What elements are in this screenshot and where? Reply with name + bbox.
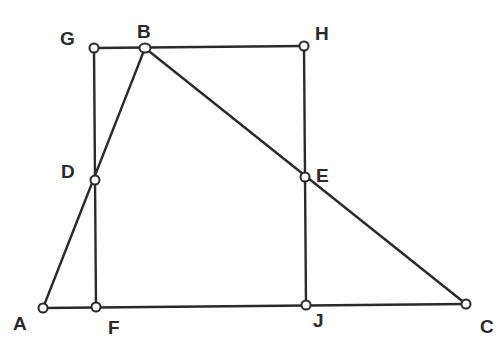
- diagram-svg: GBHDEAFJC: [0, 0, 503, 356]
- label-f: F: [108, 317, 120, 338]
- point-j: [302, 301, 311, 310]
- label-b: B: [137, 21, 151, 42]
- point-a: [39, 304, 48, 313]
- label-e: E: [316, 165, 329, 186]
- point-h: [300, 42, 309, 51]
- points-layer: [39, 42, 471, 313]
- point-c: [462, 300, 471, 309]
- label-h: H: [315, 23, 329, 44]
- point-g: [90, 44, 99, 53]
- point-e: [301, 173, 310, 182]
- label-c: C: [480, 316, 494, 337]
- label-d: D: [61, 161, 75, 182]
- segment-gh: [94, 46, 304, 48]
- label-j: J: [313, 310, 324, 331]
- geometry-diagram: GBHDEAFJC: [0, 0, 503, 356]
- point-b: [140, 44, 151, 53]
- labels-layer: GBHDEAFJC: [13, 21, 494, 338]
- label-g: G: [60, 28, 75, 49]
- segment-ac: [43, 304, 466, 308]
- segments-layer: [43, 46, 466, 308]
- point-d: [91, 176, 100, 185]
- label-a: A: [13, 313, 27, 334]
- point-f: [92, 303, 101, 312]
